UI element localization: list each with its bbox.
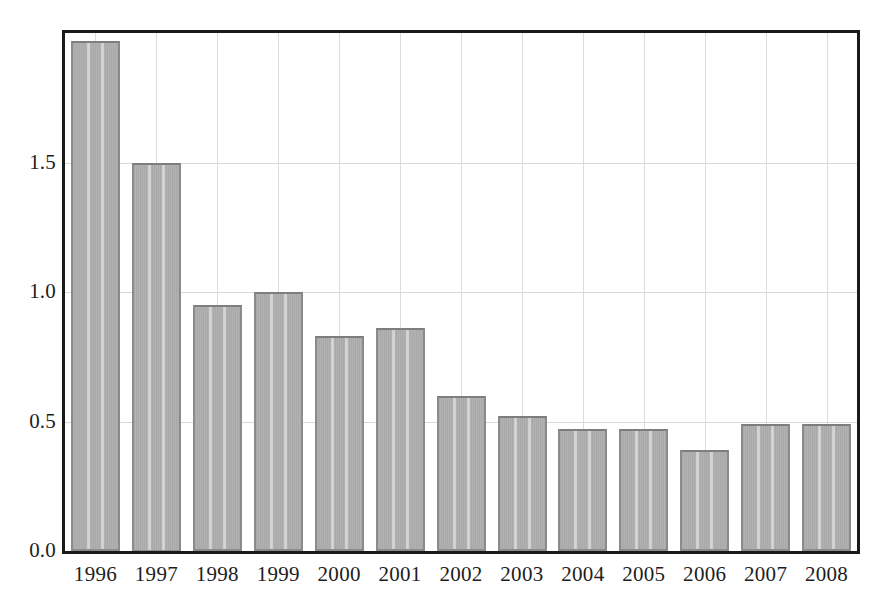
bar-highlight-streak <box>832 426 835 549</box>
bar-highlight-streak <box>771 426 774 549</box>
bar[interactable] <box>71 41 120 551</box>
bar[interactable] <box>619 429 668 551</box>
y-axis-tick-label: 0.5 <box>10 411 56 432</box>
bar-highlight-streak <box>345 338 348 549</box>
bar-highlight-streak <box>209 307 212 549</box>
bar-highlight-streak <box>406 330 409 549</box>
bar-highlight-streak <box>162 165 165 550</box>
x-axis-tick-label: 1997 <box>126 562 187 586</box>
x-axis-tick-label: 2000 <box>309 562 370 586</box>
bar-highlight-streak <box>696 452 699 549</box>
x-axis-tick-label: 2005 <box>613 562 674 586</box>
bar[interactable] <box>680 450 729 551</box>
bar[interactable] <box>254 292 303 551</box>
plot-area <box>62 30 860 554</box>
y-axis-tick-label: 1.0 <box>10 281 56 302</box>
bar-highlight-streak <box>467 398 470 549</box>
bar[interactable] <box>376 328 425 551</box>
bar-highlight-streak <box>284 294 287 549</box>
bar-highlight-streak <box>635 431 638 549</box>
bar-highlight-streak <box>270 294 273 549</box>
x-axis-tick-label: 2006 <box>674 562 735 586</box>
bar[interactable] <box>802 424 851 551</box>
y-axis: 1.51.00.50.0 <box>0 0 56 614</box>
bar[interactable] <box>437 396 486 551</box>
bar[interactable] <box>193 305 242 551</box>
bar[interactable] <box>741 424 790 551</box>
bar-highlight-streak <box>223 307 226 549</box>
x-axis-tick-label: 2003 <box>491 562 552 586</box>
x-axis-tick-label: 2001 <box>370 562 431 586</box>
x-axis-tick-label: 1996 <box>65 562 126 586</box>
bar-highlight-streak <box>392 330 395 549</box>
x-axis-tick-label: 1998 <box>187 562 248 586</box>
bar[interactable] <box>315 336 364 551</box>
bar-highlight-streak <box>331 338 334 549</box>
x-axis-tick-label: 2007 <box>735 562 796 586</box>
y-axis-tick-label: 1.5 <box>10 152 56 173</box>
bar-highlight-streak <box>649 431 652 549</box>
bar-chart: 1.51.00.50.0 199619971998199920002001200… <box>0 0 888 614</box>
bar-highlight-streak <box>757 426 760 549</box>
bar-highlight-streak <box>87 43 90 549</box>
bar-highlight-streak <box>588 431 591 549</box>
bar[interactable] <box>558 429 607 551</box>
bar[interactable] <box>498 416 547 551</box>
x-axis-tick-label: 2004 <box>552 562 613 586</box>
bar-highlight-streak <box>528 418 531 549</box>
y-axis-tick-label: 0.0 <box>10 540 56 561</box>
plot-inner <box>65 33 857 551</box>
bar-highlight-streak <box>818 426 821 549</box>
bar-highlight-streak <box>148 165 151 550</box>
bar-highlight-streak <box>514 418 517 549</box>
bar-highlight-streak <box>101 43 104 549</box>
bar-highlight-streak <box>453 398 456 549</box>
bar[interactable] <box>132 163 181 552</box>
bar-highlight-streak <box>574 431 577 549</box>
x-axis-tick-label: 2008 <box>796 562 857 586</box>
x-axis-tick-label: 2002 <box>431 562 492 586</box>
x-axis-tick-label: 1999 <box>248 562 309 586</box>
bar-highlight-streak <box>710 452 713 549</box>
